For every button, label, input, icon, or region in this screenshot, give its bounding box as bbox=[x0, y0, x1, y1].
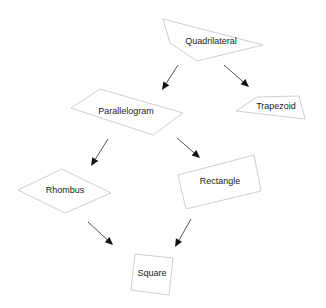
arrow-line bbox=[88, 222, 107, 240]
node-rectangle: Rectangle bbox=[178, 155, 261, 209]
edge-rhombus-to-square bbox=[88, 222, 113, 245]
quadrilateral-label: Quadrilateral bbox=[185, 36, 237, 46]
node-square: Square bbox=[131, 254, 173, 295]
node-trapezoid: Trapezoid bbox=[236, 96, 305, 119]
nodes-layer: QuadrilateralParallelogramTrapezoidRhomb… bbox=[18, 19, 305, 295]
edge-parallelogram-to-rectangle bbox=[177, 138, 200, 158]
arrow-line bbox=[179, 219, 191, 240]
rectangle-label: Rectangle bbox=[200, 176, 241, 186]
trapezoid-label: Trapezoid bbox=[256, 101, 296, 111]
node-quadrilateral: Quadrilateral bbox=[163, 19, 263, 61]
edge-parallelogram-to-rhombus bbox=[91, 139, 108, 166]
arrowhead-icon bbox=[162, 81, 169, 90]
arrowhead-icon bbox=[175, 238, 182, 247]
edge-rectangle-to-square bbox=[175, 219, 191, 247]
arrow-line bbox=[224, 65, 243, 82]
rhombus-label: Rhombus bbox=[46, 185, 85, 195]
diagram-canvas: QuadrilateralParallelogramTrapezoidRhomb… bbox=[0, 0, 326, 308]
edge-quadrilateral-to-parallelogram bbox=[162, 65, 178, 90]
edge-quadrilateral-to-trapezoid bbox=[224, 65, 249, 87]
arrow-line bbox=[177, 138, 194, 153]
node-parallelogram: Parallelogram bbox=[71, 89, 183, 135]
arrow-line bbox=[95, 139, 108, 159]
arrowhead-icon bbox=[91, 157, 98, 166]
parallelogram-label: Parallelogram bbox=[98, 106, 154, 116]
node-rhombus: Rhombus bbox=[18, 169, 111, 213]
arrow-line bbox=[166, 65, 178, 83]
square-label: Square bbox=[137, 268, 166, 278]
